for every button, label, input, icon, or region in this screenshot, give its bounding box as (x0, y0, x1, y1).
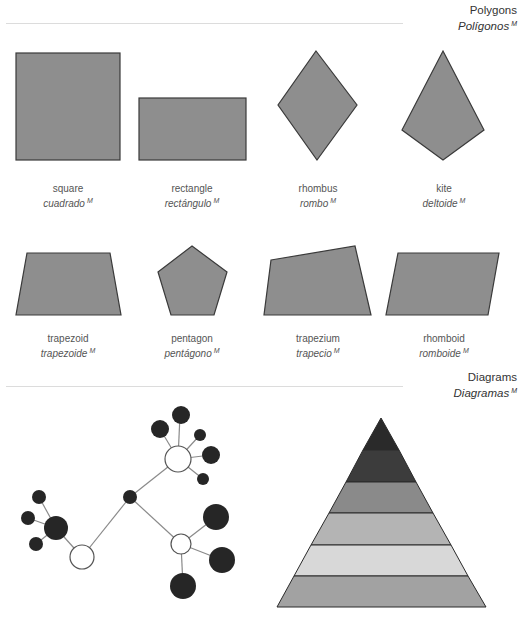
node-leaf (32, 490, 46, 504)
node-leaf (202, 446, 220, 464)
node-hub-dark (44, 516, 68, 540)
node-leaf (172, 406, 190, 424)
label-trapezoid: trapezoid trapezoideM (8, 333, 128, 360)
pyramid-band-6 (277, 576, 486, 607)
pentagon-shape (158, 246, 227, 315)
node-leaf (197, 473, 209, 485)
node-leaf (170, 573, 196, 599)
node-leaf (29, 537, 43, 551)
rhombus-shape (278, 51, 357, 160)
trapezoid-shape (16, 253, 121, 315)
node-center (123, 490, 137, 504)
pyramid-band-4 (311, 513, 451, 545)
pyramid-band-1 (363, 418, 399, 450)
label-square: square cuadradoM (8, 183, 128, 210)
pyramid-band-2 (346, 450, 416, 482)
rhomboid-shape (386, 253, 499, 315)
node-leaf (21, 511, 35, 525)
node-hub-light (70, 545, 94, 569)
figure-canvas (0, 0, 523, 628)
label-pentagon: pentagon pentágonoM (132, 333, 252, 360)
pyramid-band-5 (294, 545, 468, 576)
node-leaf (151, 420, 169, 438)
node-hub-light (171, 534, 191, 554)
label-trapezium: trapezium trapecioM (258, 333, 378, 360)
label-rhomboid: rhomboid romboideM (384, 333, 504, 360)
node-leaf (203, 504, 229, 530)
square-shape (16, 53, 120, 160)
pyramid-diagram (277, 418, 486, 607)
network-diagram (21, 406, 235, 599)
node-leaf (194, 429, 206, 441)
trapezium-shape (264, 246, 371, 315)
label-kite: kite deltoideM (384, 183, 504, 210)
label-rhombus: rhombus romboM (258, 183, 378, 210)
node-leaf (209, 547, 235, 573)
kite-shape (402, 51, 484, 160)
label-rectangle: rectangle rectánguloM (132, 183, 252, 210)
pyramid-band-3 (329, 482, 433, 513)
node-hub-light (165, 446, 191, 472)
rectangle-shape (139, 98, 246, 160)
